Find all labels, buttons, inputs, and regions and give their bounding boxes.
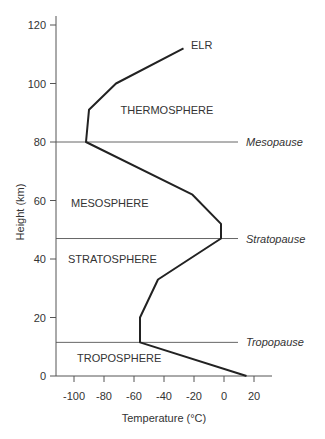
annotations: ELR xyxy=(191,39,212,51)
y-tick-label: 60 xyxy=(34,195,46,207)
y-axis-ticks: 020406080100120 xyxy=(28,19,56,382)
x-tick-label: -100 xyxy=(63,390,85,402)
x-tick-label: -60 xyxy=(126,390,142,402)
thermosphere-label: THERMOSPHERE xyxy=(121,104,214,116)
x-tick-label: 0 xyxy=(221,390,227,402)
mesopause-label: Mesopause xyxy=(246,136,303,148)
x-tick-label: -20 xyxy=(186,390,202,402)
stratosphere-label: STRATOSPHERE xyxy=(68,253,157,265)
y-tick-label: 100 xyxy=(28,78,46,90)
x-tick-label: 20 xyxy=(248,390,260,402)
x-axis-ticks: -100-80-60-40-20020 xyxy=(63,376,260,402)
x-tick-label: -80 xyxy=(96,390,112,402)
elr-line xyxy=(86,48,247,376)
y-tick-label: 120 xyxy=(28,19,46,31)
y-axis-title: Height (km) xyxy=(14,184,26,241)
tropopause-label: Tropopause xyxy=(246,336,304,348)
troposphere-label: TROPOSPHERE xyxy=(77,352,161,364)
elr-annotation: ELR xyxy=(191,39,212,51)
mesosphere-label: MESOSPHERE xyxy=(71,197,149,209)
y-tick-label: 40 xyxy=(34,253,46,265)
y-tick-label: 0 xyxy=(40,370,46,382)
y-tick-label: 20 xyxy=(34,312,46,324)
x-tick-label: -40 xyxy=(156,390,172,402)
atmosphere-temperature-chart: TropopauseStratopauseMesopause -100-80-6… xyxy=(0,0,325,439)
stratopause-label: Stratopause xyxy=(246,233,305,245)
x-axis-title: Temperature (°C) xyxy=(122,412,206,424)
layer-boundaries: TropopauseStratopauseMesopause xyxy=(56,136,305,348)
y-tick-label: 80 xyxy=(34,136,46,148)
chart-canvas: TropopauseStratopauseMesopause -100-80-6… xyxy=(0,0,325,439)
